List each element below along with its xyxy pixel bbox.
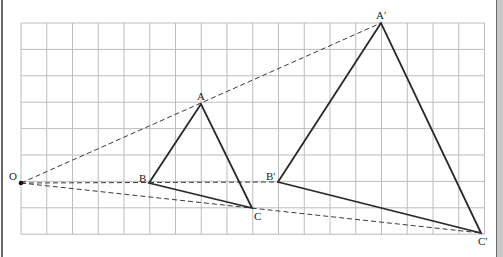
dashed-rays	[21, 23, 481, 233]
triangle-a-prime-b-prime-c-prime	[278, 23, 481, 233]
label-b: B	[139, 172, 146, 184]
label-c: C	[254, 210, 261, 222]
triangles	[19, 23, 481, 233]
label-a: A	[197, 90, 205, 102]
center-point-o	[19, 181, 24, 186]
label-c-prime: C′	[478, 235, 488, 247]
label-o: O	[9, 170, 17, 182]
grid	[21, 23, 485, 234]
label-b-prime: B′	[266, 170, 276, 182]
label-a-prime: A′	[376, 9, 386, 21]
point-labels: OABCA′B′C′	[9, 9, 488, 247]
